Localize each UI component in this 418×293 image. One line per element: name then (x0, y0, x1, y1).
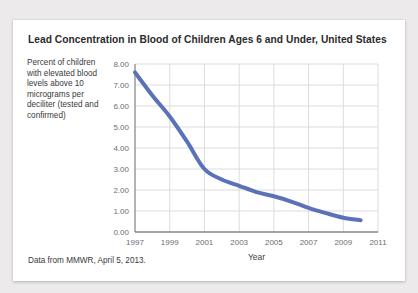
svg-text:4.00: 4.00 (113, 144, 129, 153)
x-axis-title: Year (248, 252, 265, 262)
svg-text:6.00: 6.00 (113, 102, 129, 111)
svg-text:2007: 2007 (300, 238, 318, 247)
svg-text:0.00: 0.00 (113, 228, 129, 237)
line-chart-svg: 0.001.002.003.004.005.006.007.008.00 199… (13, 20, 405, 281)
chart-card: Lead Concentration in Blood of Children … (13, 20, 405, 281)
svg-text:2009: 2009 (334, 238, 352, 247)
source-note: Data from MMWR, April 5, 2013. (28, 256, 146, 265)
svg-text:7.00: 7.00 (113, 81, 129, 90)
y-axis-tick-labels: 0.001.002.003.004.005.006.007.008.00 (113, 60, 129, 237)
svg-text:2001: 2001 (196, 238, 214, 247)
chart-plot-area: 0.001.002.003.004.005.006.007.008.00 199… (13, 20, 405, 281)
svg-text:8.00: 8.00 (113, 60, 129, 69)
gridlines (135, 64, 378, 232)
svg-text:2003: 2003 (230, 238, 248, 247)
data-series-line (135, 72, 361, 220)
svg-text:3.00: 3.00 (113, 165, 129, 174)
x-axis-tick-labels: 19971999200120032005200720092011 (126, 238, 387, 247)
svg-text:2011: 2011 (369, 238, 387, 247)
svg-text:1997: 1997 (126, 238, 144, 247)
svg-text:2.00: 2.00 (113, 186, 129, 195)
svg-text:1999: 1999 (161, 238, 179, 247)
svg-text:5.00: 5.00 (113, 123, 129, 132)
svg-text:2005: 2005 (265, 238, 283, 247)
svg-text:1.00: 1.00 (113, 207, 129, 216)
